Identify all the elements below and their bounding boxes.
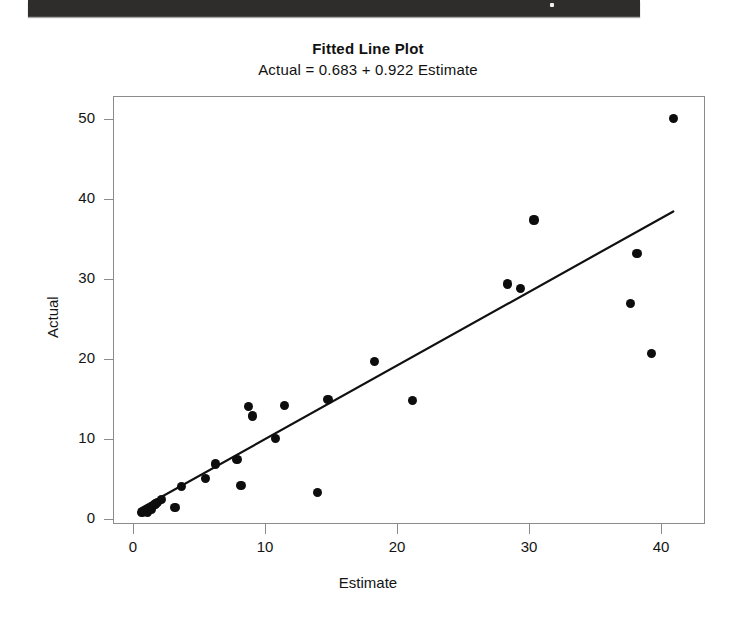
y-tick-mark (104, 279, 113, 280)
y-tick-mark (104, 119, 113, 120)
x-axis-label: Estimate (0, 574, 736, 591)
data-point (370, 357, 379, 366)
data-point (632, 249, 641, 258)
data-point (177, 482, 186, 491)
scan-artifact-bar (28, 0, 640, 16)
data-point (236, 481, 245, 490)
y-tick-mark (104, 359, 113, 360)
x-tick-label: 20 (367, 538, 427, 555)
data-point (626, 299, 635, 308)
x-tick-label: 10 (235, 538, 295, 555)
plot-frame (113, 96, 705, 524)
x-tick-label: 30 (499, 538, 559, 555)
data-point (323, 395, 332, 404)
data-point (503, 279, 512, 288)
data-point (201, 474, 210, 483)
x-tick-mark (661, 524, 662, 534)
y-tick-label: 10 (45, 429, 95, 446)
data-point (271, 434, 280, 443)
data-point (157, 495, 166, 504)
data-point (529, 215, 538, 224)
data-point (232, 455, 241, 464)
y-tick-label: 0 (45, 509, 95, 526)
y-tick-mark (104, 199, 113, 200)
x-tick-mark (133, 524, 134, 534)
y-tick-mark (104, 519, 113, 520)
y-axis-label: Actual (44, 296, 61, 338)
y-tick-label: 40 (45, 189, 95, 206)
x-tick-label: 40 (631, 538, 691, 555)
x-tick-mark (265, 524, 266, 534)
chart-subtitle: Actual = 0.683 + 0.922 Estimate (0, 61, 736, 78)
y-tick-label: 20 (45, 349, 95, 366)
data-point (211, 459, 220, 468)
y-tick-label: 30 (45, 269, 95, 286)
y-tick-label: 50 (45, 109, 95, 126)
x-tick-mark (397, 524, 398, 534)
chart-title: Fitted Line Plot (0, 40, 736, 57)
x-tick-mark (529, 524, 530, 534)
data-point (170, 503, 179, 512)
x-tick-label: 0 (103, 538, 163, 555)
plot-area (114, 97, 704, 523)
data-point (248, 411, 257, 420)
y-tick-mark (104, 439, 113, 440)
